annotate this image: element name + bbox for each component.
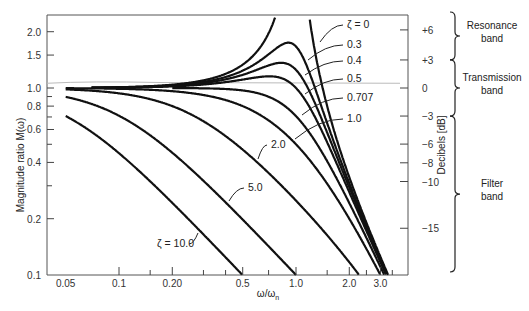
x-tick-label: 0.20 (163, 278, 183, 289)
y-tick-label: 0.6 (27, 124, 41, 135)
band-brace (450, 116, 460, 272)
y-axis: 0.10.20.40.60.81.01.52.0 (27, 27, 54, 281)
curve-zeta-0.5 (92, 76, 386, 274)
band-label: band (481, 191, 503, 202)
x-axis-title: ω/ωn (257, 288, 279, 301)
db-tick-label: −10 (422, 177, 439, 188)
y-tick-label: 0.4 (27, 157, 41, 168)
band-label: band (481, 85, 503, 96)
curve-label: 0.707 (347, 91, 373, 103)
curve-label: 0.5 (347, 72, 362, 84)
x-tick-label: 0.1 (112, 278, 126, 289)
y-tick-label: 2.0 (27, 27, 41, 38)
curve-label: 2.0 (271, 138, 286, 150)
band-label: band (481, 33, 503, 44)
right-axis-title: Decibels [dB] (436, 115, 447, 174)
db-tick-label: +3 (422, 55, 434, 66)
band-label: Transmission (462, 72, 521, 83)
db-tick-label: 0 (422, 83, 428, 94)
curve-zeta-1 (66, 88, 380, 274)
db-tick-label: −3 (422, 111, 434, 122)
band-braces: ResonancebandTransmissionbandFilterband (450, 12, 522, 272)
curve-labels: ζ = 00.30.40.50.7071.02.05.0ζ = 10.0 (157, 18, 373, 249)
x-tick-label: 2.0 (342, 278, 356, 289)
band-brace (450, 60, 460, 116)
y-tick-label: 0.2 (27, 214, 41, 225)
frequency-response-chart: 0.050.10.200.51.02.03.0 0.10.20.40.60.81… (0, 0, 529, 311)
band-label: Filter (481, 178, 504, 189)
x-axis: 0.050.10.200.51.02.03.0 (56, 267, 392, 289)
curve-label: 1.0 (347, 112, 362, 124)
decibel-axis: +6+30−3−6−8−10−15 (400, 25, 439, 234)
x-tick-label: 0.5 (236, 278, 250, 289)
db-tick-label: −6 (422, 139, 434, 150)
y-tick-label: 1.0 (27, 83, 41, 94)
x-tick-label: 0.05 (56, 278, 76, 289)
y-axis-title: Magnitude ratio M(ω) (15, 118, 26, 213)
curve-label: ζ = 0 (347, 18, 370, 30)
curve-zeta-10 (66, 116, 242, 275)
curve-label: ζ = 10.0 (157, 237, 194, 249)
curve-label: 0.3 (347, 38, 362, 50)
x-tick-label: 3.0 (373, 278, 387, 289)
y-tick-label: 0.8 (27, 101, 41, 112)
y-tick-label: 1.5 (27, 50, 41, 61)
db-tick-label: +6 (422, 25, 434, 36)
curve-label: 0.4 (347, 54, 362, 66)
y-tick-label: 0.1 (27, 270, 41, 281)
db-tick-label: −15 (422, 223, 439, 234)
band-label: Resonance (467, 20, 518, 31)
x-tick-label: 1.0 (289, 278, 303, 289)
db-tick-label: −8 (422, 158, 434, 169)
curve-label: 5.0 (248, 181, 263, 193)
response-curves (66, 18, 388, 275)
band-brace (450, 12, 460, 60)
